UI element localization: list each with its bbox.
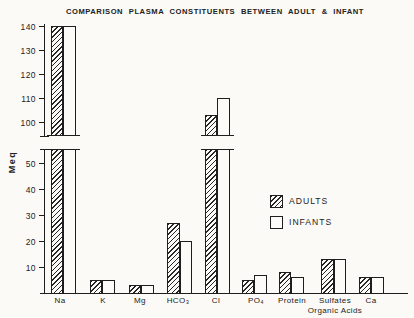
y-tick-label-lower: 10	[14, 263, 36, 273]
y-tick-upper	[39, 98, 44, 99]
x-category-label: Ca	[339, 296, 403, 306]
adults-hatched-swatch-icon	[270, 195, 283, 208]
bar-infants-6	[291, 277, 304, 294]
y-tick-lower	[39, 215, 44, 216]
bar-adults-0-lower	[51, 150, 64, 294]
y-tick-lower	[39, 189, 44, 190]
y-tick-upper	[39, 74, 44, 75]
legend-item-infants: INFANTS	[270, 215, 332, 229]
y-tick-label-upper: 140	[14, 22, 36, 32]
y-tick-label-upper: 110	[14, 94, 36, 104]
y-tick-upper	[39, 122, 44, 123]
bar-infants-7	[334, 259, 347, 294]
bar-infants-5	[254, 275, 267, 294]
y-axis-lower-segment	[44, 150, 45, 294]
infants-open-swatch-icon	[270, 216, 283, 229]
legend-label-infants: INFANTS	[289, 217, 332, 227]
bar-infants-4-lower	[217, 150, 230, 294]
y-tick-label-upper: 130	[14, 46, 36, 56]
bar-adults-7	[321, 259, 334, 294]
plot-area: 1001101201301401020304050NaKMgHCO₃ClPO₄P…	[0, 0, 414, 318]
y-tick-label-upper: 100	[14, 118, 36, 128]
y-axis-upper-segment	[44, 24, 45, 137]
legend-item-adults: ADULTS	[270, 194, 332, 208]
bar-infants-3	[180, 241, 193, 294]
bar-infants-1	[102, 280, 115, 294]
legend: ADULTS INFANTS	[270, 194, 332, 236]
legend-label-adults: ADULTS	[289, 196, 328, 206]
y-tick-lower	[39, 163, 44, 164]
bar-adults-0-upper	[51, 26, 64, 136]
y-tick-upper	[39, 26, 44, 27]
y-tick-label-upper: 120	[14, 70, 36, 80]
y-tick-label-lower: 30	[14, 211, 36, 221]
bar-infants-0-lower	[63, 150, 76, 294]
bar-adults-5	[242, 280, 255, 294]
bar-adults-2	[129, 285, 142, 294]
y-tick-label-lower: 50	[14, 159, 36, 169]
y-tick-label-lower: 20	[14, 237, 36, 247]
chart-page: COMPARISON PLASMA CONSTITUENTS BETWEEN A…	[0, 0, 414, 318]
bar-infants-8	[371, 277, 384, 294]
bar-adults-8	[359, 277, 372, 294]
bar-adults-1	[90, 280, 103, 294]
y-tick-lower	[39, 267, 44, 268]
bar-adults-4-upper	[205, 115, 218, 136]
bar-infants-2	[141, 285, 154, 294]
bar-adults-6	[279, 272, 292, 294]
y-tick-label-lower: 40	[14, 185, 36, 195]
bar-infants-4-upper	[217, 98, 230, 136]
bar-adults-4-lower	[205, 150, 218, 294]
bar-adults-3	[167, 223, 180, 294]
bar-infants-0-upper	[63, 26, 76, 136]
y-tick-upper	[39, 50, 44, 51]
y-tick-lower	[39, 241, 44, 242]
